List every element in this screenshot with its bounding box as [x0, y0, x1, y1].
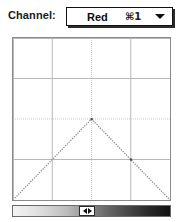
channel-dropdown-inner: Red ⌘1: [67, 8, 172, 25]
right-arrow-icon: [88, 208, 92, 214]
channel-dropdown-value: Red: [87, 11, 108, 23]
curve-graph[interactable]: [12, 37, 171, 201]
channel-row: Channel: Red ⌘1: [0, 6, 181, 28]
channel-dropdown-shortcut: ⌘1: [125, 11, 141, 22]
left-arrow-icon: [83, 208, 87, 214]
channel-dropdown[interactable]: Red ⌘1: [66, 7, 173, 26]
chevron-down-icon: [155, 14, 165, 19]
ramp-slider-handle[interactable]: [79, 206, 95, 216]
curves-panel: Channel: Red ⌘1: [0, 0, 181, 222]
channel-label: Channel:: [8, 9, 56, 21]
curve-graph-svg: [13, 38, 170, 200]
tone-ramp-bar[interactable]: [12, 205, 171, 217]
